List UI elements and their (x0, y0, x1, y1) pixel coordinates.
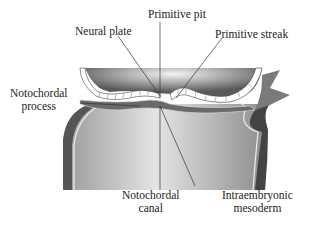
lower-body (63, 104, 270, 190)
label-neural-plate: Neural plate (75, 25, 132, 38)
label-notochordal-canal: Notochordal canal (122, 189, 179, 215)
label-notochordal-process: Notochordal process (10, 87, 67, 113)
label-intraembryonic-mesoderm: Intraembryonic mesoderm (222, 189, 293, 215)
label-primitive-pit: Primitive pit (148, 8, 206, 21)
label-primitive-streak: Primitive streak (215, 28, 288, 41)
